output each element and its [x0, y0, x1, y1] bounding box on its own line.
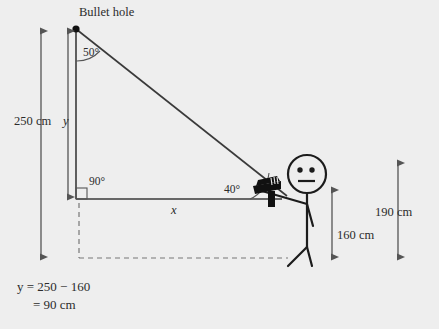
bullet-hole-label: Bullet hole: [79, 5, 135, 19]
left-dimensions-group: 250 cm y: [14, 31, 69, 257]
dashed-reference-group: [79, 203, 288, 258]
equation-group: y = 250 − 160 = 90 cm: [17, 279, 90, 312]
bullet-hole-group: Bullet hole: [72, 5, 134, 33]
left-eye-icon: [297, 167, 302, 172]
stick-figure-group: [262, 155, 326, 266]
triangle-group: [76, 29, 287, 199]
angle-arcs-group: 50° 90° 40°: [76, 46, 269, 199]
bullet-trajectory-diagram: Bullet hole 50° 90° 40° 250 cm y x: [0, 0, 439, 329]
dimension-label-x: x: [170, 203, 177, 217]
dimension-label-250cm: 250 cm: [14, 114, 51, 128]
right-eye-icon: [309, 167, 314, 172]
equation-line-2: = 90 cm: [33, 297, 76, 312]
dimension-label-160cm: 160 cm: [337, 228, 374, 242]
bullet-trajectory-line: [76, 29, 287, 196]
dot-icon: [72, 25, 79, 32]
leg-right-line: [307, 247, 312, 266]
face-icon: [288, 155, 326, 193]
pistol-icon: [253, 176, 281, 207]
right-dimensions-group: 160 cm 190 cm: [332, 163, 412, 257]
dimension-label-y: y: [61, 114, 69, 128]
dimension-label-190cm: 190 cm: [375, 205, 412, 219]
diagram-canvas: Bullet hole 50° 90° 40° 250 cm y x: [0, 0, 439, 329]
leg-left-line: [288, 247, 307, 266]
equation-line-1: y = 250 − 160: [17, 279, 90, 294]
angle-label-50: 50°: [83, 46, 100, 58]
angle-label-90: 90°: [89, 175, 106, 187]
angle-label-40: 40°: [224, 183, 241, 195]
right-angle-square: [76, 188, 87, 199]
